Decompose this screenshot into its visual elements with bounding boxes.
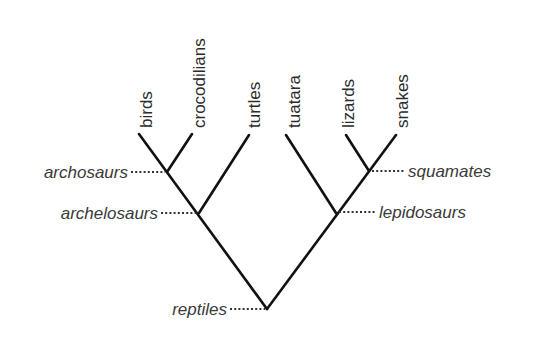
taxon-label-crocodilians: crocodilians — [190, 38, 209, 128]
clade-labels: archosaurs archelosaurs squamates lepido… — [44, 162, 492, 319]
taxon-label-tuatara: tuatara — [285, 75, 304, 128]
branch-turtles — [199, 135, 249, 213]
branch-snakes — [267, 135, 396, 309]
branch-lizards — [346, 135, 369, 171]
branch-birds — [139, 134, 267, 309]
clade-label-lepidosaurs: lepidosaurs — [379, 203, 466, 222]
branches — [139, 134, 396, 309]
clade-label-reptiles: reptiles — [172, 300, 227, 319]
branch-crocodilians — [167, 134, 192, 172]
taxon-label-turtles: turtles — [245, 82, 264, 128]
branch-tuatara — [286, 135, 336, 213]
clade-leaders — [131, 171, 405, 309]
taxon-label-snakes: snakes — [393, 74, 412, 128]
cladogram: birds crocodilians turtles tuatara lizar… — [0, 0, 537, 344]
clade-label-archelosaurs: archelosaurs — [61, 204, 159, 223]
taxon-label-lizards: lizards — [339, 79, 358, 128]
clade-label-squamates: squamates — [408, 162, 492, 181]
taxon-label-birds: birds — [137, 91, 156, 128]
clade-label-archosaurs: archosaurs — [44, 163, 129, 182]
tip-labels: birds crocodilians turtles tuatara lizar… — [137, 38, 412, 128]
